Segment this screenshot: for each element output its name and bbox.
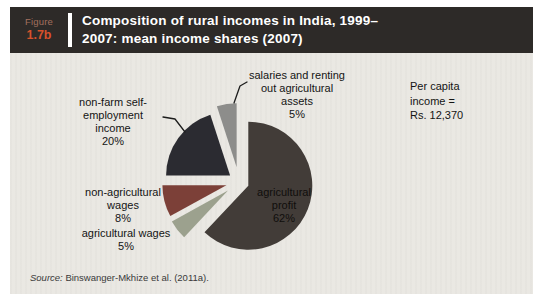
label-agricultural-profit: agricultural profit 62% bbox=[238, 186, 330, 225]
label-agricultural-wages: agricultural wages 5% bbox=[56, 227, 196, 253]
label-line: employment bbox=[57, 109, 169, 122]
label-value: 5% bbox=[236, 108, 358, 121]
label-value: 20% bbox=[57, 135, 169, 148]
source-text: Binswanger-Mkhize et al. (2011a). bbox=[63, 272, 209, 283]
figure-label: Figure 1.7b bbox=[10, 16, 68, 44]
label-line: non-farm self- bbox=[57, 96, 169, 109]
figure-number: 1.7b bbox=[10, 28, 68, 44]
figure-title-line-2: 2007: mean income shares (2007) bbox=[82, 30, 378, 48]
figure-page: Figure 1.7b Composition of rural incomes… bbox=[0, 0, 533, 308]
label-salaries-renting: salaries and renting out agricultural as… bbox=[236, 69, 358, 121]
label-non-farm-self-employment: non-farm self- employment income 20% bbox=[57, 96, 169, 148]
figure-title: Composition of rural incomes in India, 1… bbox=[82, 12, 378, 47]
label-value: 62% bbox=[238, 212, 330, 225]
label-line: income bbox=[57, 122, 169, 135]
annotation-line: Per capita bbox=[410, 79, 510, 94]
label-line: salaries and renting bbox=[236, 69, 358, 82]
annotation-line: Rs. 12,370 bbox=[410, 108, 510, 123]
annotation-line: income = bbox=[410, 94, 510, 109]
figure-header: Figure 1.7b Composition of rural incomes… bbox=[10, 7, 533, 53]
label-line: agricultural bbox=[238, 186, 330, 199]
per-capita-annotation: Per capita income = Rs. 12,370 bbox=[410, 79, 510, 123]
label-line: non-agricultural bbox=[62, 186, 184, 199]
label-line: agricultural wages bbox=[56, 227, 196, 240]
source-prefix: Source: bbox=[30, 272, 63, 283]
label-line: wages bbox=[62, 199, 184, 212]
label-non-agricultural-wages: non-agricultural wages 8% bbox=[62, 186, 184, 225]
label-line: out agricultural bbox=[236, 82, 358, 95]
source-note: Source: Binswanger-Mkhize et al. (2011a)… bbox=[30, 272, 209, 283]
label-value: 8% bbox=[62, 212, 184, 225]
header-divider bbox=[68, 13, 72, 47]
label-value: 5% bbox=[56, 240, 196, 253]
figure-title-line-1: Composition of rural incomes in India, 1… bbox=[82, 12, 378, 30]
label-line: assets bbox=[236, 95, 358, 108]
label-line: profit bbox=[238, 199, 330, 212]
figure-eyebrow: Figure bbox=[10, 16, 68, 28]
